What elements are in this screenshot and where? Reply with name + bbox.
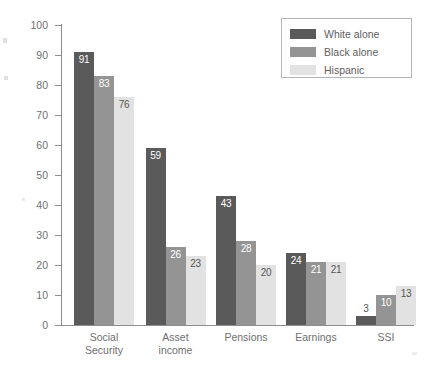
x-axis-line bbox=[61, 325, 414, 326]
y-axis-tick bbox=[55, 235, 62, 236]
bar-value-label: 3 bbox=[356, 303, 376, 314]
y-axis-tick bbox=[55, 175, 62, 176]
x-axis-category-line: SSI bbox=[338, 331, 428, 344]
y-axis-tick bbox=[55, 55, 62, 56]
y-axis-tick bbox=[55, 295, 62, 296]
scan-artifact bbox=[3, 38, 7, 43]
bar-value-label: 13 bbox=[396, 288, 416, 299]
bar: 20 bbox=[256, 265, 276, 325]
bar: 21 bbox=[326, 262, 346, 325]
bar-value-label: 83 bbox=[94, 78, 114, 89]
bar: 26 bbox=[166, 247, 186, 325]
legend-swatch bbox=[290, 29, 316, 39]
y-axis-tick bbox=[55, 85, 62, 86]
legend-label: Hispanic bbox=[324, 64, 364, 76]
y-axis-tick-label: 100 bbox=[14, 20, 48, 30]
scan-artifact bbox=[412, 352, 417, 355]
y-axis-tick bbox=[55, 265, 62, 266]
bar: 76 bbox=[114, 97, 134, 325]
y-axis-tick-label: 40 bbox=[14, 200, 48, 210]
bar: 10 bbox=[376, 295, 396, 325]
bar-value-label: 91 bbox=[74, 54, 94, 65]
scan-artifact bbox=[4, 76, 8, 80]
bar-value-label: 21 bbox=[326, 264, 346, 275]
y-axis-tick-label: 30 bbox=[14, 230, 48, 240]
bar-chart: Percent 0102030405060708090100 918376592… bbox=[0, 0, 428, 370]
bar-value-label: 59 bbox=[146, 150, 166, 161]
bar: 83 bbox=[94, 76, 114, 325]
y-axis-tick bbox=[55, 115, 62, 116]
legend-label: White alone bbox=[324, 28, 379, 40]
y-axis-tick-label: 0 bbox=[14, 320, 48, 330]
chart-legend: White aloneBlack aloneHispanic bbox=[281, 18, 412, 78]
bar-value-label: 26 bbox=[166, 249, 186, 260]
x-axis-category-label: SSI bbox=[338, 331, 428, 344]
y-axis-tick-label: 10 bbox=[14, 290, 48, 300]
bar-value-label: 23 bbox=[186, 258, 206, 269]
bar: 28 bbox=[236, 241, 256, 325]
bar: 23 bbox=[186, 256, 206, 325]
bar-value-label: 20 bbox=[256, 267, 276, 278]
legend-swatch bbox=[290, 65, 316, 75]
y-axis-tick-label: 20 bbox=[14, 260, 48, 270]
legend-swatch bbox=[290, 47, 316, 57]
y-axis-tick-label: 80 bbox=[14, 80, 48, 90]
y-axis-tick-label: 90 bbox=[14, 50, 48, 60]
bar-value-label: 24 bbox=[286, 255, 306, 266]
legend-label: Black alone bbox=[324, 46, 378, 58]
bar: 24 bbox=[286, 253, 306, 325]
x-axis-category-line: income bbox=[128, 344, 224, 357]
y-axis-tick bbox=[55, 325, 62, 326]
bar-value-label: 28 bbox=[236, 243, 256, 254]
y-axis-tick-label: 70 bbox=[14, 110, 48, 120]
bar-value-label: 76 bbox=[114, 99, 134, 110]
bar: 59 bbox=[146, 148, 166, 325]
bar: 3 bbox=[356, 316, 376, 325]
y-axis-tick bbox=[55, 205, 62, 206]
y-axis-tick bbox=[55, 25, 62, 26]
bar: 21 bbox=[306, 262, 326, 325]
y-axis-tick bbox=[55, 145, 62, 146]
bar: 13 bbox=[396, 286, 416, 325]
bar: 91 bbox=[74, 52, 94, 325]
bar-value-label: 10 bbox=[376, 297, 396, 308]
bar-value-label: 43 bbox=[216, 198, 236, 209]
y-axis-tick-label: 50 bbox=[14, 170, 48, 180]
y-axis-tick-label: 60 bbox=[14, 140, 48, 150]
bar: 43 bbox=[216, 196, 236, 325]
bar-value-label: 21 bbox=[306, 264, 326, 275]
